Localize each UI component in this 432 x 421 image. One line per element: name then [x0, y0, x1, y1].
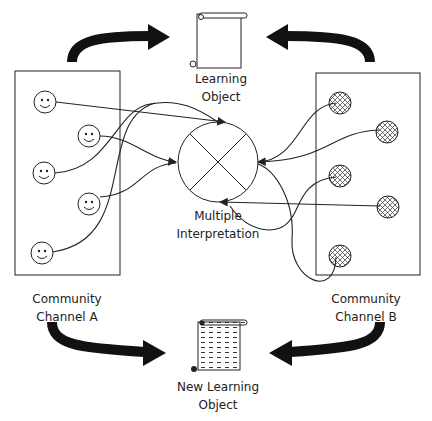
label-line: New Learning [168, 378, 268, 396]
label-line: Learning [176, 70, 266, 88]
smiley-icon [78, 193, 100, 215]
smiley-icon [78, 125, 100, 147]
label-line: Multiple [168, 207, 268, 225]
label-line: Object [176, 88, 266, 106]
channel-a-label: Community Channel A [17, 290, 117, 326]
hatched-smiley-icon [329, 92, 351, 114]
hatched-smiley-icon [377, 196, 399, 218]
channel-a-members [31, 91, 100, 264]
arrow-b-to-learning-object [266, 24, 370, 62]
hatched-smiley-icon [329, 165, 351, 187]
hatched-smiley-icon [376, 121, 398, 143]
learning-object-label: Learning Object [176, 70, 266, 106]
smiley-icon [31, 242, 53, 264]
arrow-b-to-new-learning-object [269, 322, 380, 366]
label-line: Community [316, 290, 416, 308]
smiley-icon [34, 91, 56, 113]
hatched-smiley-icon [329, 245, 351, 267]
channel-b-members [329, 92, 399, 267]
label-line: Community [17, 290, 117, 308]
label-line: Channel A [17, 308, 117, 326]
scroll-icon [190, 13, 247, 68]
channel-a-box [15, 71, 120, 275]
smiley-icon [33, 162, 55, 184]
multiple-interpretation-label: Multiple Interpretation [168, 207, 268, 243]
new-learning-object-label: New Learning Object [168, 378, 268, 414]
label-line: Channel B [316, 308, 416, 326]
scroll-filled-icon [191, 320, 247, 372]
arrow-a-to-learning-object [72, 24, 170, 62]
circle-cross-icon [178, 122, 258, 202]
arrow-a-to-new-learning-object [52, 322, 166, 366]
label-line: Interpretation [168, 225, 268, 243]
label-line: Object [168, 396, 268, 414]
channel-b-label: Community Channel B [316, 290, 416, 326]
